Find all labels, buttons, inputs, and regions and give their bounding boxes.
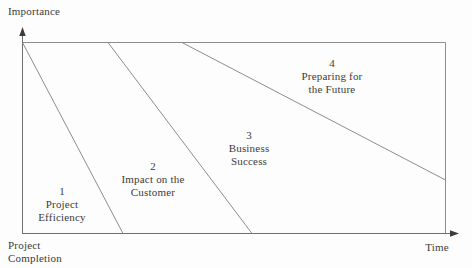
region-2-name-line2: Customer — [121, 186, 184, 199]
region-2-number: 2 — [121, 160, 184, 173]
importance-time-diagram: Importance 1 Project Efficiency 2 Impact… — [0, 0, 472, 268]
region-4-number: 4 — [302, 57, 363, 70]
x-axis-arrow-icon — [450, 230, 459, 236]
y-axis-arrow-icon — [19, 27, 25, 36]
region-1-name-line2: Efficiency — [38, 211, 86, 224]
region-2-name-line1: Impact on the — [121, 173, 184, 186]
region-3-number: 3 — [229, 129, 270, 142]
origin-label: Project Completion — [8, 239, 62, 265]
region-1-name-line1: Project — [38, 198, 86, 211]
region-1-label: 1 Project Efficiency — [38, 185, 86, 224]
x-axis-label: Time — [425, 241, 449, 254]
origin-label-line1: Project — [8, 239, 62, 252]
region-3-name-line2: Success — [229, 155, 270, 168]
y-axis-label: Importance — [8, 5, 60, 18]
region-4-name-line1: Preparing for — [302, 70, 363, 83]
region-4-name-line2: the Future — [302, 83, 363, 96]
origin-label-line2: Completion — [8, 252, 62, 265]
region-3-name-line1: Business — [229, 142, 270, 155]
region-3-label: 3 Business Success — [229, 129, 270, 168]
region-4-label: 4 Preparing for the Future — [302, 57, 363, 96]
region-2-label: 2 Impact on the Customer — [121, 160, 184, 199]
region-1-number: 1 — [38, 185, 86, 198]
